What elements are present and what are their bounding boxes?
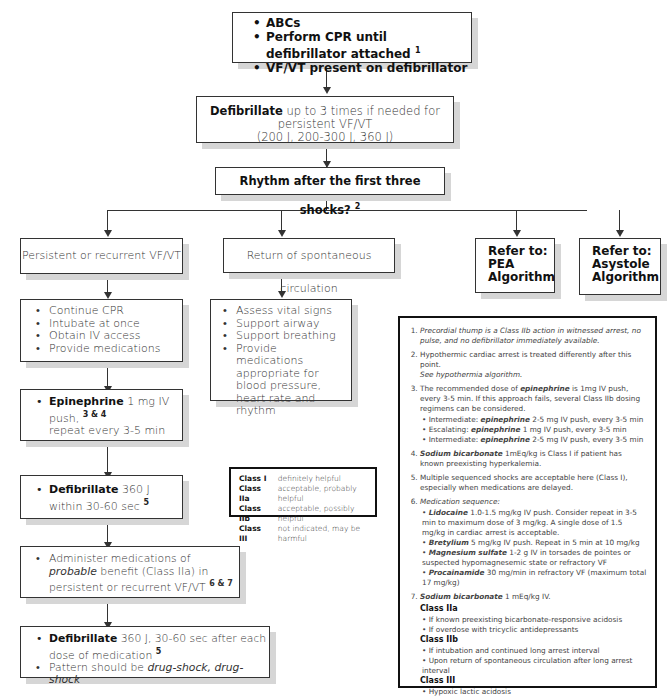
final-defibrillate-item: Defibrillate 360 J, 30-60 sec after each… [36,633,269,662]
final-defibrillate-box: Defibrillate 360 J, 30-60 sec after each… [20,626,270,678]
arrow-icon [616,230,624,237]
pattern-item: Pattern should be drug-shock, drug-shock [36,662,269,687]
rosc-item: Support breathing [223,330,345,343]
note-3-sub: Intermediate: epinephrine 2-5 mg IV push… [422,435,647,445]
note-6-sub: Lidocaine 1.0-1.5 mg/kg IV push. Conside… [422,508,647,538]
note-6-sub: Magnesium sulfate 1-2 g IV in torsades d… [422,548,647,568]
pea-refer-box: Refer to: PEA Algorithm [475,238,555,293]
note-7-class: Class IIa [420,604,647,614]
legend-row: Class IIbacceptable, possibly helpful [239,504,375,524]
note-2: Hypothermic cardiac arrest is treated di… [420,350,647,380]
asystole-refer-box: Refer to: Asystole Algorithm [579,238,661,295]
defibrillate-360-box: Defibrillate 360 Jwithin 30-60 sec 5 [20,475,183,519]
note-7: Sodium bicarbonate 1 mEq/kg IV. Class II… [420,592,647,697]
note-3-sub: Escalating: epinephrine 1 mg IV push, ev… [422,425,647,435]
epinephrine-item: Epinephrine 1 mg IV push, 3 & 4repeat ev… [36,396,182,437]
action-item: Provide medications [36,343,182,356]
note-3: The recommended dose of epinephrine is 1… [420,384,647,445]
start-item: ABCs [253,16,471,30]
asystole-line: Algorithm [592,271,660,284]
note-6-sub: Bretylium 5 mg/kg IV push. Repeat in 5 m… [422,538,647,548]
defibrillate-item: Defibrillate 360 Jwithin 30-60 sec 5 [36,484,182,513]
note-6-sub: Procainamide 30 mg/min in refractory VF … [422,568,647,588]
pea-line: Algorithm [488,271,554,284]
initial-defibrillate-box: Defibrillate up to 3 times if needed for… [196,96,454,143]
arrow-icon [323,87,331,94]
note-7-sub: If overdose with tricyclic antidepressan… [422,625,647,635]
note-7-sub: Hypoxic lactic acidosis [422,687,647,697]
action-item: Obtain IV access [36,330,182,343]
legend-row: Class IIInot indicated, may be harmful [239,524,375,544]
epinephrine-box: Epinephrine 1 mg IV push, 3 & 4repeat ev… [20,389,183,441]
start-box: ABCs Perform CPR until defibrillator att… [232,12,472,63]
rosc-item: Provide medications appropriate for bloo… [223,343,345,418]
note-7-class: Class IIb [420,635,647,645]
note-5: Multiple sequenced shocks are acceptable… [420,473,647,493]
note-7-sub: If intubation and continued long arrest … [422,646,647,656]
footnotes-panel: Precordial thump is a Class IIb action i… [398,316,657,688]
note-4: Sodium bicarbonate 1mEq/kg is Class I if… [420,449,647,469]
note-7-class: Class III [420,676,647,686]
initial-actions-box: Continue CPR Intubate at once Obtain IV … [20,299,183,362]
persistent-vf-vt-box: Persistent or recurrent VF/VT [20,238,183,274]
legend-row: Class Idefinitely helpful [239,474,375,484]
rhythm-question-box: Rhythm after the first three shocks? 2 [215,167,445,195]
start-item: Perform CPR until defibrillator attached… [253,30,471,61]
class-iia-medications-box: Administer medications ofprobable benefi… [20,546,240,598]
rosc-actions-box: Assess vital signs Support airway Suppor… [210,299,352,401]
legend-row: Class IIaacceptable, probably helpful [239,484,375,504]
rosc-item: Assess vital signs [223,305,345,318]
start-item: VF/VT present on defibrillator [253,61,471,75]
arrow-icon [278,230,286,237]
medications-item: Administer medications ofprobable benefi… [36,553,239,594]
note-7-sub: If known preexisting bicarbonate-respons… [422,615,647,625]
note-1: Precordial thump is a Class IIb action i… [420,326,647,346]
action-item: Continue CPR [36,305,182,318]
note-7-sub: Upon return of spontaneous circulation a… [422,656,647,676]
rosc-box: Return of spontaneous circulation [223,238,395,273]
class-legend: Class Idefinitely helpful Class IIaaccep… [229,467,377,517]
note-6: Medication sequence: Lidocaine 1.0-1.5 m… [420,497,647,588]
arrow-icon [104,292,112,299]
note-3-sub: Intermediate: epinephrine 2-5 mg IV push… [422,415,647,425]
arrow-icon [513,230,521,237]
arrow-icon [104,230,112,237]
